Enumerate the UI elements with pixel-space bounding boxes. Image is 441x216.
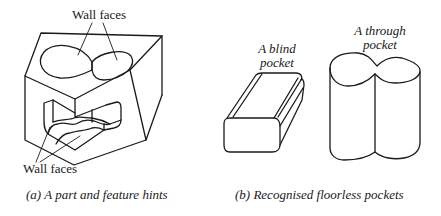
- through-pocket-label-line1: A through: [340, 24, 420, 38]
- through-pocket-drawing: [330, 53, 420, 160]
- blind-pocket-drawing: [224, 73, 304, 152]
- caption-b: (b) Recognised floorless pockets: [235, 188, 404, 202]
- leader-lines: [36, 23, 117, 162]
- wall-faces-top-label: Wall faces: [72, 8, 126, 22]
- wall-faces-bottom-label: Wall faces: [23, 162, 77, 176]
- blind-pocket-label-line2: pocket: [242, 56, 312, 70]
- through-pocket-label-line2: pocket: [340, 38, 420, 52]
- part-drawing: [25, 33, 162, 165]
- blind-pocket-label-line1: A blind: [242, 42, 312, 56]
- caption-a: (a) A part and feature hints: [26, 188, 168, 202]
- top-pocket-outline: [41, 46, 133, 80]
- side-pocket-outline: [44, 100, 121, 150]
